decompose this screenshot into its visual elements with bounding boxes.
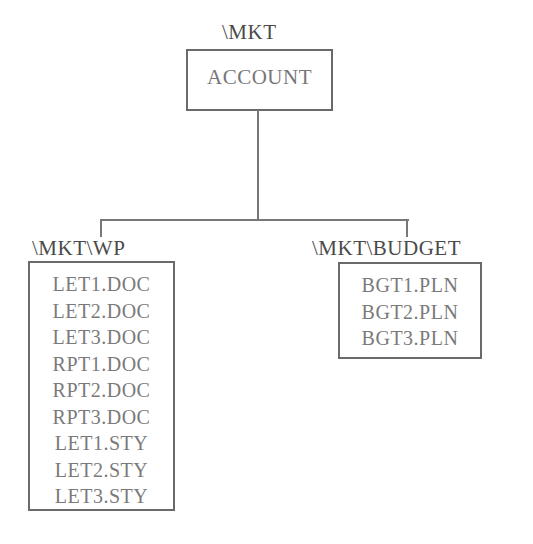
wp-file-list: LET1.DOC LET2.DOC LET3.DOC RPT1.DOC RPT2…	[30, 271, 173, 510]
wp-drop-connector	[100, 219, 102, 237]
root-directory-box: ACCOUNT	[186, 49, 333, 111]
trunk-connector	[257, 110, 259, 221]
budget-drop-connector	[406, 219, 408, 237]
file-item: RPT2.DOC	[30, 377, 173, 404]
file-item: LET1.DOC	[30, 271, 173, 298]
file-item: LET3.DOC	[30, 324, 173, 351]
root-path-label: \MKT	[222, 22, 277, 43]
budget-file-list: BGT1.PLN BGT2.PLN BGT3.PLN	[340, 272, 480, 352]
wp-path-label: \MKT\WP	[32, 238, 125, 259]
budget-directory-box: BGT1.PLN BGT2.PLN BGT3.PLN	[338, 262, 482, 359]
file-item: LET1.STY	[30, 430, 173, 457]
file-item: LET2.STY	[30, 457, 173, 484]
branch-connector	[100, 219, 409, 221]
wp-directory-box: LET1.DOC LET2.DOC LET3.DOC RPT1.DOC RPT2…	[28, 261, 175, 511]
file-item: BGT3.PLN	[340, 325, 480, 352]
root-directory-name: ACCOUNT	[188, 67, 331, 88]
file-item: BGT1.PLN	[340, 272, 480, 299]
budget-path-label: \MKT\BUDGET	[312, 238, 461, 259]
file-item: RPT3.DOC	[30, 404, 173, 431]
file-item: BGT2.PLN	[340, 299, 480, 326]
file-item: LET2.DOC	[30, 298, 173, 325]
file-item: LET3.STY	[30, 483, 173, 510]
file-item: RPT1.DOC	[30, 351, 173, 378]
